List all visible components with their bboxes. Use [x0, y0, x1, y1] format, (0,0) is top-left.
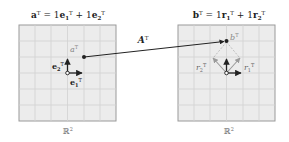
right-title: bT = 1r1T + 1r2T — [193, 10, 266, 21]
right-origin — [225, 71, 229, 75]
b-point — [225, 39, 229, 43]
right-space-label: ℝ2 — [224, 126, 234, 136]
left-title: aT = 1e1T + 1e2T — [31, 10, 105, 21]
right-panel: bT = 1r1T + 1r2T bT r2T r1T ℝ2 — [178, 10, 275, 136]
left-origin — [66, 71, 70, 75]
left-space-label: ℝ2 — [63, 126, 73, 136]
mapping-label: AT — [137, 35, 149, 45]
left-panel: aT = 1e1T + 1e2T aT e2T e1T ℝ2 — [19, 10, 116, 136]
diagram-canvas: aT = 1e1T + 1e2T aT e2T e1T ℝ2 — [0, 0, 289, 142]
